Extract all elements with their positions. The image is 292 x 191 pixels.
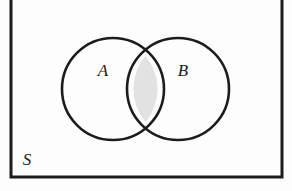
set-a-label: A <box>97 61 109 80</box>
universal-set-label: S <box>23 150 32 169</box>
venn-diagram-canvas: A B S <box>0 0 292 191</box>
venn-diagram-figure: A B S <box>0 0 292 191</box>
set-b-label: B <box>178 61 189 80</box>
